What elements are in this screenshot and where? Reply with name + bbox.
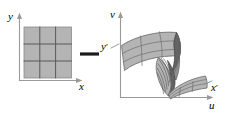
- figure-canvas: [0, 0, 235, 115]
- reference-y-axis-label-text: y: [8, 10, 13, 22]
- deformed-body-y-prime-mark: ′: [106, 42, 108, 52]
- reference-y-axis-label: y: [8, 6, 13, 24]
- deformed-body-x-prime-mark: ′: [216, 83, 218, 93]
- deformed-body-y-prime-label: y′: [101, 36, 108, 54]
- deformed-u-axis: [121, 95, 214, 100]
- reference-y-axis: [17, 13, 22, 81]
- reference-x-axis-label-text: x: [79, 80, 84, 92]
- deformed-surface: [122, 32, 208, 99]
- deformed-v-axis-label: v: [110, 4, 115, 22]
- deformed-body-x-prime-label: x′: [211, 77, 218, 95]
- reference-x-axis-label: x: [79, 76, 84, 94]
- reference-configuration-group: [17, 13, 83, 84]
- deformed-u-axis-label-text: u: [209, 99, 215, 111]
- reference-grid-body: [24, 27, 72, 78]
- deformed-configuration-group: [111, 12, 214, 101]
- reference-x-axis: [20, 78, 83, 83]
- deformed-v-axis-label-text: v: [110, 8, 115, 20]
- deformed-u-axis-label: u: [209, 95, 215, 113]
- deformation-figure: y x v u y′ x′: [0, 0, 235, 115]
